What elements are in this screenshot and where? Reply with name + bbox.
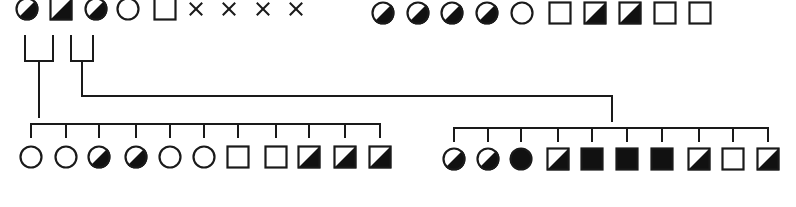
male-symbol [582, 149, 603, 170]
individual-II-20 [723, 149, 744, 170]
individual-II-3 [88, 146, 111, 169]
individual-I-18 [655, 3, 676, 24]
individual-I-5 [155, 0, 176, 20]
male-symbol [723, 149, 744, 170]
individual-II-1 [21, 147, 42, 168]
individual-II-10 [334, 146, 357, 169]
half-fill [334, 146, 357, 169]
individual-I-6 [191, 4, 202, 15]
male-symbol [228, 147, 249, 168]
female-symbol [118, 0, 139, 20]
female-symbol [160, 147, 181, 168]
female-symbol [56, 147, 77, 168]
individual-II-17 [617, 149, 638, 170]
individual-II-7 [228, 147, 249, 168]
half-fill [584, 2, 607, 25]
individual-I-19 [690, 3, 711, 24]
individual-I-8 [258, 4, 269, 15]
individual-I-4 [118, 0, 139, 20]
individual-I-7 [224, 4, 235, 15]
male-symbol [690, 3, 711, 24]
individual-I-12 [441, 2, 464, 25]
pedigree-lines [25, 36, 768, 141]
individual-II-5 [160, 147, 181, 168]
half-fill [298, 146, 321, 169]
individual-II-19 [688, 148, 711, 171]
individual-I-13 [476, 2, 499, 25]
individual-II-18 [652, 149, 673, 170]
individual-II-16 [582, 149, 603, 170]
generation-2 [21, 146, 780, 171]
female-symbol [511, 149, 532, 170]
individual-II-14 [511, 149, 532, 170]
individual-I-16 [584, 2, 607, 25]
individual-I-1 [16, 0, 39, 21]
individual-II-4 [125, 146, 148, 169]
female-symbol [21, 147, 42, 168]
female-symbol [194, 147, 215, 168]
half-fill [757, 148, 780, 171]
male-symbol [617, 149, 638, 170]
female-symbol [512, 3, 533, 24]
individual-I-10 [372, 2, 395, 25]
individual-II-21 [757, 148, 780, 171]
half-fill [688, 148, 711, 171]
half-fill [50, 0, 73, 21]
male-symbol [550, 3, 571, 24]
pedigree-diagram [0, 0, 796, 207]
individual-II-13 [477, 148, 500, 171]
individual-II-9 [298, 146, 321, 169]
half-fill [619, 2, 642, 25]
male-symbol [652, 149, 673, 170]
individual-I-3 [85, 0, 108, 21]
individual-I-17 [619, 2, 642, 25]
male-symbol [655, 3, 676, 24]
individual-I-11 [407, 2, 430, 25]
individual-II-2 [56, 147, 77, 168]
generation-1 [16, 0, 711, 25]
individual-II-15 [547, 148, 570, 171]
male-symbol [155, 0, 176, 20]
individual-II-12 [443, 148, 466, 171]
male-symbol [266, 147, 287, 168]
individual-I-14 [512, 3, 533, 24]
individual-I-9 [291, 4, 302, 15]
half-fill [369, 146, 392, 169]
half-fill [547, 148, 570, 171]
individual-II-6 [194, 147, 215, 168]
individual-II-8 [266, 147, 287, 168]
individual-II-11 [369, 146, 392, 169]
individual-I-2 [50, 0, 73, 21]
individual-I-15 [550, 3, 571, 24]
